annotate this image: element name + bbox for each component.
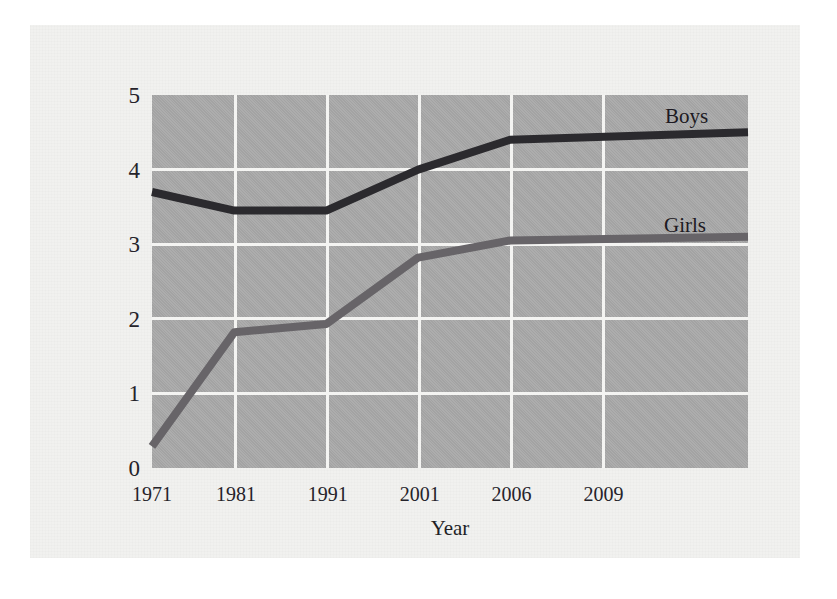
y-axis-tick-labels: 5 4 3 2 1 0 bbox=[96, 95, 140, 468]
x-tick-2001: 2001 bbox=[400, 484, 440, 504]
series-line-boys bbox=[152, 132, 748, 210]
series-label-boys: Boys bbox=[665, 104, 708, 129]
y-tick-0: 0 bbox=[100, 457, 140, 480]
y-tick-1: 1 bbox=[100, 382, 140, 405]
x-tick-2009: 2009 bbox=[584, 484, 624, 504]
y-tick-2: 2 bbox=[100, 307, 140, 330]
series-label-girls: Girls bbox=[664, 213, 706, 238]
x-axis-title: Year bbox=[152, 516, 748, 541]
x-tick-1991: 1991 bbox=[308, 484, 348, 504]
x-tick-2006: 2006 bbox=[492, 484, 532, 504]
y-tick-3: 3 bbox=[100, 233, 140, 256]
y-tick-5: 5 bbox=[100, 84, 140, 107]
series-line-girls bbox=[152, 237, 748, 447]
x-tick-1971: 1971 bbox=[132, 484, 172, 504]
y-tick-4: 4 bbox=[100, 158, 140, 181]
x-tick-1981: 1981 bbox=[216, 484, 256, 504]
series-container bbox=[152, 95, 748, 468]
chart-page: Number of high school students participa… bbox=[0, 0, 837, 599]
plot-area: Boys Girls bbox=[152, 95, 748, 468]
x-axis-tick-labels: 1971 1981 1991 2001 2006 2009 bbox=[152, 484, 748, 514]
